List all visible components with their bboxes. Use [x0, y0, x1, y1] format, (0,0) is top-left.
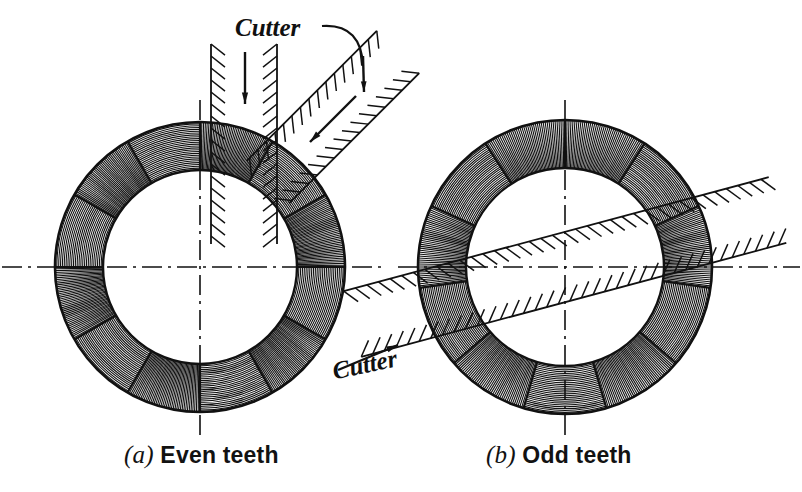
caption-b-text: Odd teeth [516, 442, 632, 468]
caption-a: (a) Even teeth [124, 441, 279, 469]
technical-drawing-canvas [0, 0, 802, 492]
caption-a-mark: (a) [124, 441, 154, 468]
cutter-label-a: Cutter [235, 14, 300, 42]
caption-b-mark: (b) [486, 441, 516, 468]
figure-root: Cutter Cutter (a) Even teeth (b) Odd tee… [0, 0, 802, 492]
caption-a-text: Even teeth [154, 442, 279, 468]
caption-b: (b) Odd teeth [486, 441, 632, 469]
